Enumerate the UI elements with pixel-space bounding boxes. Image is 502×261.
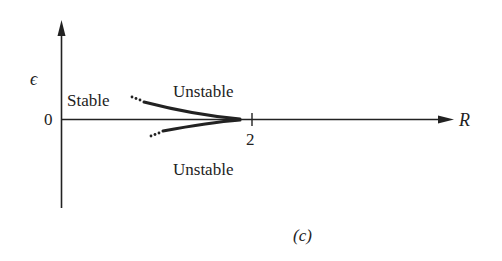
origin-label: 0 (44, 111, 53, 128)
bifurcation-diagram: ϵ 0 Stable Unstable 2 R Unstable (c) (0, 0, 502, 261)
unstable-upper-label: Unstable (173, 83, 233, 100)
tick-label-2: 2 (246, 131, 255, 148)
epsilon-axis-arrowhead-icon (58, 20, 66, 36)
r-axis-label: R (459, 111, 470, 129)
stable-region-label: Stable (67, 92, 110, 109)
epsilon-axis-label: ϵ (30, 70, 37, 88)
panel-label: (c) (293, 227, 312, 244)
r-axis-arrowhead-icon (438, 116, 454, 124)
lower-stability-boundary (150, 120, 240, 137)
panel-label-text: (c) (293, 226, 312, 245)
unstable-lower-label: Unstable (173, 161, 233, 178)
